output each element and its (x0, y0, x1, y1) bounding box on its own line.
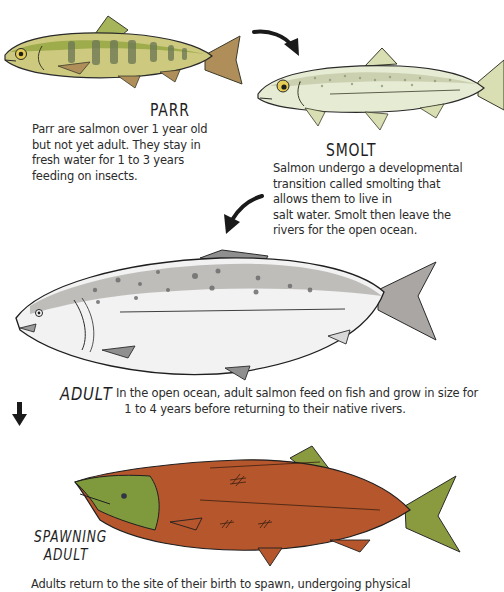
stage-title-parr: PARR (150, 100, 190, 120)
smolt-desc-line: transition called smolting that (273, 176, 494, 192)
parr-desc-line: fresh water for 1 to 3 years (32, 152, 271, 168)
stage-title-adult: ADULT (60, 383, 113, 404)
spawning-desc-line: Adults return to the site of their birth… (31, 576, 473, 592)
parr-desc-line: but not yet adult. They stay in (32, 137, 271, 153)
spawning-title-line: SPAWNING (34, 528, 107, 546)
smolt-desc-line: Salmon undergo a developmental (273, 160, 494, 176)
stage-description-spawning-adult: Adults return to the site of their birth… (31, 576, 473, 592)
smolt-desc-line: salt water. Smolt then leave the (273, 207, 494, 223)
adult-desc-line: In the open ocean, adult salmon feed on … (116, 385, 502, 401)
stage-title-spawning-adult: SPAWNING ADULT (34, 528, 107, 564)
parr-desc-line: feeding on insects. (32, 168, 271, 184)
smolt-desc-line: rivers for the open ocean. (273, 222, 494, 238)
spawning-title-line: ADULT (34, 546, 107, 564)
adult-desc-line: 1 to 4 years before returning to their n… (116, 401, 502, 417)
stage-description-smolt: Salmon undergo a developmental transitio… (273, 160, 494, 238)
stage-title-smolt: SMOLT (326, 140, 376, 160)
stage-description-adult: In the open ocean, adult salmon feed on … (116, 385, 502, 416)
stage-description-parr: Parr are salmon over 1 year old but not … (32, 121, 271, 183)
smolt-desc-line: allows them to live in (273, 191, 494, 207)
parr-desc-line: Parr are salmon over 1 year old (32, 121, 271, 137)
